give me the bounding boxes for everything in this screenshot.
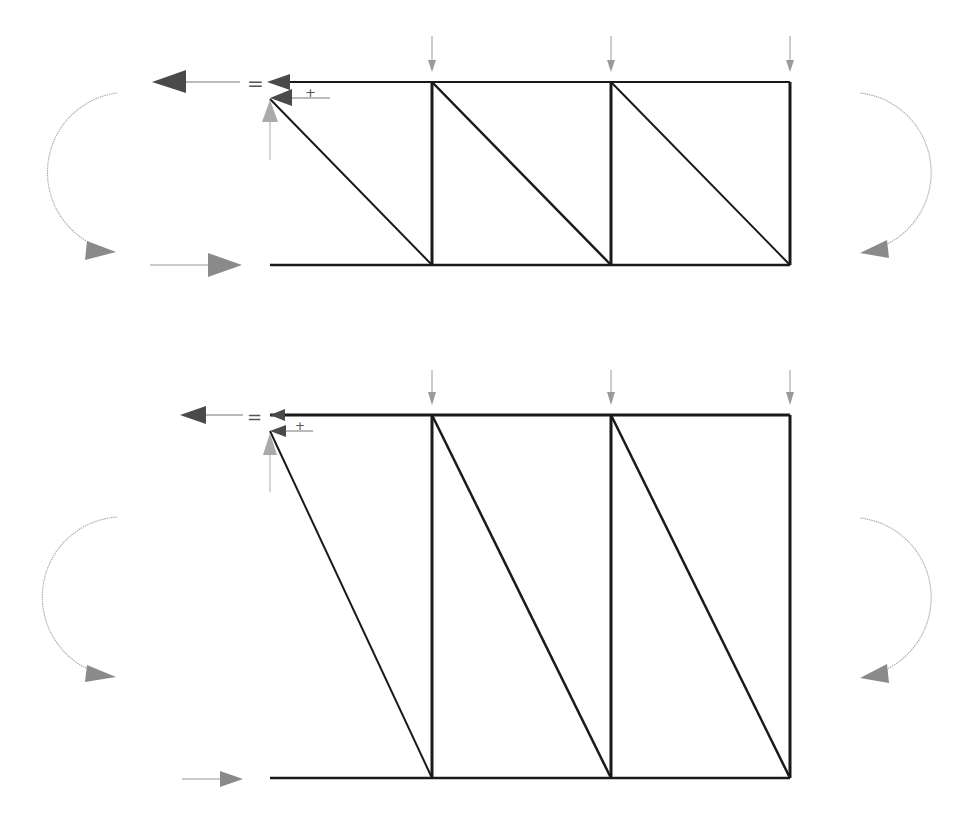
- left-moment-arrow-icon: [47, 93, 117, 260]
- vertical-reaction-arrow-icon: [262, 100, 278, 160]
- resultant-force-arrow-icon: [180, 406, 243, 424]
- bottom-chord-force-arrow-icon: [150, 253, 242, 277]
- diagonal-member: [270, 99, 432, 265]
- truss-tall: = +: [42, 370, 931, 787]
- load-arrow-icon: [428, 370, 436, 405]
- bottom-chord-force-arrow-icon: [182, 771, 243, 787]
- diagonal-member: [611, 82, 790, 265]
- diagonal-force-arrow-icon: [270, 89, 330, 106]
- right-moment-arrow-icon: [860, 93, 931, 258]
- chord-force-arrow-icon: [267, 74, 290, 90]
- diagonal-force-arrow-icon: [270, 425, 313, 437]
- chord-force-arrow-icon: [270, 409, 285, 421]
- load-arrow-icon: [786, 36, 794, 72]
- resultant-force-arrow-icon: [152, 70, 240, 93]
- truss-diagram: = +: [0, 0, 965, 822]
- load-arrow-icon: [786, 370, 794, 405]
- truss-short: = +: [47, 36, 931, 277]
- plus-sign: +: [295, 419, 305, 433]
- diagonal-member: [432, 415, 611, 778]
- right-moment-arrow-icon: [860, 518, 931, 683]
- load-arrow-icon: [607, 370, 615, 405]
- plus-sign: +: [305, 85, 316, 100]
- diagonal-member: [432, 82, 611, 265]
- equals-sign: =: [247, 71, 264, 95]
- left-moment-arrow-icon: [42, 517, 117, 682]
- equals-sign: =: [247, 406, 262, 427]
- diagonal-member: [611, 415, 790, 778]
- diagonal-member: [270, 431, 432, 778]
- load-arrow-icon: [607, 36, 615, 72]
- load-arrow-icon: [428, 36, 436, 72]
